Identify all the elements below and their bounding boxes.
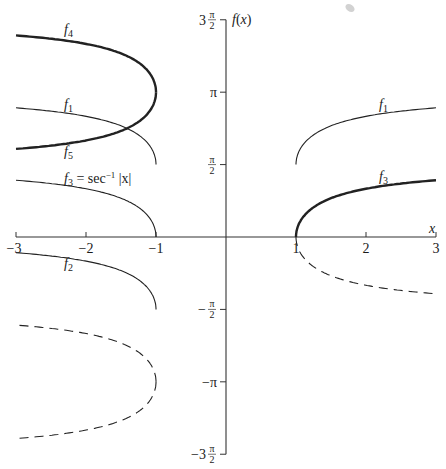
curve-f1-left [16,108,156,165]
y-tick-label: π2−3 [191,443,216,465]
curve-f5 [16,92,156,149]
label-f3-right: f3 [379,169,388,186]
x-tick-label: −2 [79,241,94,256]
y-tick-label: π2 [208,154,216,176]
x-axis-label: x [428,221,436,236]
y-tick-label: π2− [198,298,216,320]
x-tick-label: 1 [293,241,300,256]
svg-text:−3: −3 [191,447,206,462]
svg-text:π: π [210,85,217,100]
y-tick-label: −π [202,375,217,390]
svg-text:3: 3 [199,13,206,28]
svg-text:π: π [209,9,214,20]
curve-f2-left [16,253,156,310]
curve-dashed-left-upper [16,325,156,382]
svg-text:2: 2 [210,165,215,176]
label-f1-right: f1 [379,97,388,114]
x-tick-label: −1 [149,241,164,256]
smudge-mark [344,2,356,13]
label-f3-equation: f3 = sec−1 |x| [64,170,131,188]
y-tick-label: π [210,85,217,100]
curve-f3-right [296,180,436,237]
svg-text:π: π [209,154,214,165]
y-tick-label: π23 [199,9,216,31]
label-f1-left: f1 [64,97,73,114]
svg-text:−: − [198,302,206,317]
svg-text:2: 2 [210,20,215,31]
x-tick-label: −3 [7,241,22,256]
x-tick-label: 2 [363,241,370,256]
svg-text:−π: −π [202,375,217,390]
label-f4-left: f4 [64,22,73,39]
svg-text:π: π [209,443,214,454]
svg-text:π: π [209,298,214,309]
y-axis-label: f(x) [232,12,252,28]
curve-dashed-left-lower [16,382,156,439]
curve-f4 [16,35,156,92]
svg-text:2: 2 [210,454,215,465]
x-tick-label: 3 [433,241,440,256]
label-f5-left: f5 [64,144,73,161]
curve-f1-right [296,108,436,165]
axes [16,20,436,454]
chart-figure: −3−2−1123π23ππ2π2−−ππ2−3 f(x) x f4 f1 f5… [0,0,446,469]
svg-text:2: 2 [210,309,215,320]
curve-f3-left [16,180,156,237]
